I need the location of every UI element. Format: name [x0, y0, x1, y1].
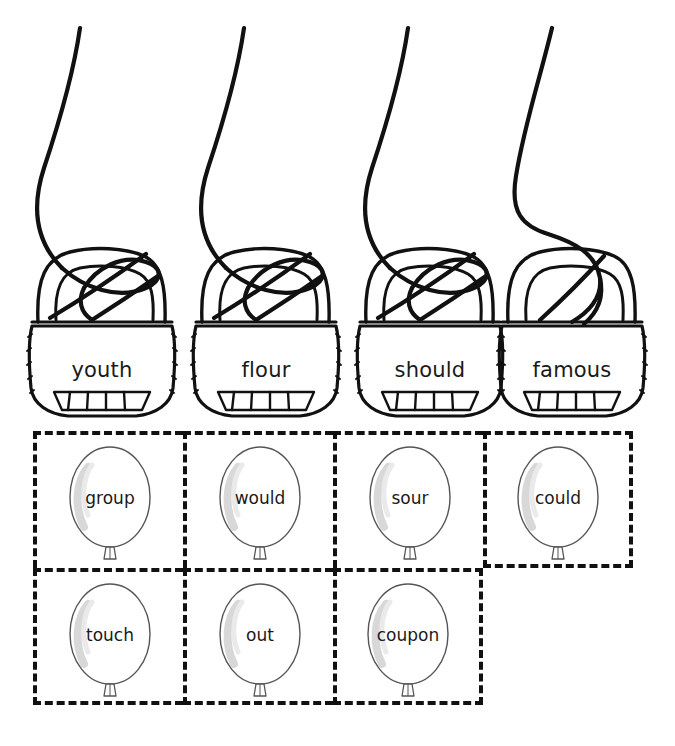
balloon[interactable]: would: [208, 441, 312, 569]
balloon-icon: [358, 441, 462, 569]
balloon-icon: [208, 578, 312, 706]
balloon-cell[interactable]: would: [183, 431, 333, 568]
balloon-icon: [506, 441, 610, 569]
basket-icon: [186, 0, 346, 425]
worksheet-page: youth: [0, 0, 675, 746]
balloon[interactable]: touch: [58, 578, 162, 706]
balloon-grid: group would: [33, 431, 642, 706]
balloon-grid-row: group would: [33, 431, 642, 568]
balloon-icon: [58, 578, 162, 706]
balloon-icon: [58, 441, 162, 569]
basket-icon: [22, 0, 182, 425]
basket-item[interactable]: should: [350, 0, 510, 425]
balloon-cell[interactable]: sour: [333, 431, 483, 568]
basket-item[interactable]: youth: [22, 0, 182, 425]
balloon-icon: [208, 441, 312, 569]
basket-item[interactable]: flour: [186, 0, 346, 425]
balloon-cell[interactable]: coupon: [333, 568, 483, 705]
balloon-icon: [356, 578, 460, 706]
balloon[interactable]: could: [506, 441, 610, 569]
basket-row: youth: [0, 0, 675, 425]
balloon[interactable]: coupon: [356, 578, 460, 706]
basket-icon: [350, 0, 510, 425]
balloon-cell[interactable]: out: [183, 568, 333, 705]
basket-item[interactable]: famous: [492, 0, 652, 425]
balloon-cell[interactable]: touch: [33, 568, 183, 705]
balloon[interactable]: sour: [358, 441, 462, 569]
basket-icon: [492, 0, 652, 425]
balloon-cell[interactable]: group: [33, 431, 183, 568]
balloon[interactable]: group: [58, 441, 162, 569]
balloon-cell[interactable]: could: [483, 431, 633, 568]
balloon-grid-row: touch out: [33, 568, 492, 705]
balloon[interactable]: out: [208, 578, 312, 706]
